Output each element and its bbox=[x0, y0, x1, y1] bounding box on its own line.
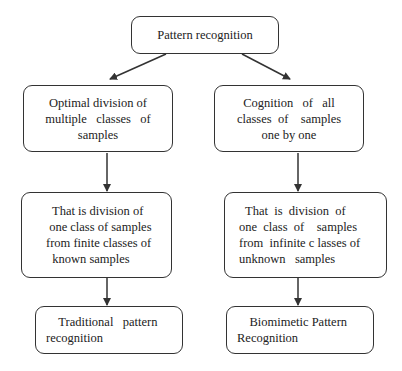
node-cognition-all-classes: Cognition of all classes of samples one … bbox=[214, 85, 364, 152]
node-biomimetic-pattern-recognition: Biomimetic Pattern Recognition bbox=[226, 306, 374, 354]
node-text: Recognition bbox=[237, 330, 373, 346]
node-infinite-classes-division: That is division of one class of samples… bbox=[224, 192, 387, 278]
node-text: That is division of bbox=[239, 203, 386, 219]
node-pattern-recognition: Pattern recognition bbox=[131, 16, 279, 54]
node-text: Pattern recognition bbox=[157, 27, 252, 43]
node-text: Biomimetic Pattern bbox=[237, 314, 373, 330]
node-text: one class of samples bbox=[46, 219, 171, 235]
arrow-root-to-right-mid bbox=[242, 54, 290, 79]
node-traditional-pattern-recognition: Traditional pattern recognition bbox=[35, 306, 183, 354]
node-text: Cognition of all bbox=[243, 95, 335, 111]
arrow-root-to-left-mid bbox=[110, 54, 166, 79]
node-text: known samples bbox=[46, 251, 171, 267]
node-text: That is division of bbox=[46, 203, 171, 219]
node-text: one class of samples bbox=[239, 219, 386, 235]
node-text: samples bbox=[78, 127, 118, 143]
node-optimal-division: Optimal division of multiple classes of … bbox=[23, 85, 173, 152]
node-text: Traditional pattern bbox=[46, 314, 182, 330]
node-text: unknown samples bbox=[239, 251, 386, 267]
node-text: from finite classes of bbox=[46, 235, 171, 251]
node-text: multiple classes of bbox=[45, 111, 151, 127]
node-text: recognition bbox=[46, 330, 182, 346]
node-text: from infinite c lasses of bbox=[239, 235, 386, 251]
node-text: classes of samples bbox=[237, 111, 341, 127]
node-text: Optimal division of bbox=[49, 95, 147, 111]
node-finite-classes-division: That is division of one class of samples… bbox=[21, 192, 172, 278]
node-text: one by one bbox=[262, 127, 317, 143]
